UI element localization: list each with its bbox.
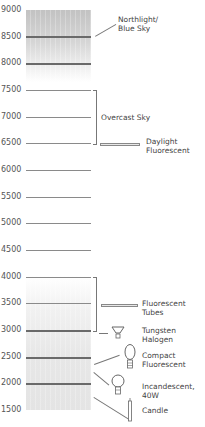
gridline-4000 bbox=[26, 277, 91, 278]
overcast-brace bbox=[93, 90, 97, 145]
gridline-8000 bbox=[26, 63, 91, 65]
halogen-bulb-icon bbox=[111, 326, 125, 340]
chart-title-cropped bbox=[0, 0, 205, 2]
northlight-label: Northlight/ Blue Sky bbox=[118, 15, 158, 33]
gridline-7000 bbox=[26, 117, 91, 118]
gridline-6000 bbox=[26, 170, 91, 171]
y-tick-label: 1500 bbox=[1, 406, 23, 414]
y-tick-label: 4500 bbox=[1, 246, 23, 254]
y-tick-label: 6500 bbox=[1, 139, 23, 147]
compact-fluorescent-label: Compact Fluorescent bbox=[142, 351, 186, 369]
incandescent-label: Incandescent, 40W bbox=[142, 382, 205, 400]
gridline-7500 bbox=[26, 90, 91, 91]
y-tick-label: 5000 bbox=[1, 219, 23, 227]
gridline-5500 bbox=[26, 197, 91, 198]
gridline-5000 bbox=[26, 223, 91, 224]
gridline-3000 bbox=[26, 330, 91, 332]
gridline-8500 bbox=[26, 36, 91, 38]
daylight-fluorescent-label: Daylight Fluorescent bbox=[146, 137, 190, 155]
fluorescent-tubes-label: Fluorescent Tubes bbox=[142, 299, 186, 317]
halogen-leader bbox=[99, 333, 108, 334]
y-tick-label: 8000 bbox=[1, 59, 23, 67]
cool-gradient-band bbox=[26, 10, 91, 82]
y-tick-label: 2500 bbox=[1, 353, 23, 361]
candle-leader bbox=[93, 397, 129, 420]
candle-label: Candle bbox=[142, 406, 168, 415]
y-tick-label: 2000 bbox=[1, 379, 23, 387]
y-tick-label: 8500 bbox=[1, 33, 23, 41]
overcast-label: Overcast Sky bbox=[101, 113, 150, 122]
y-tick-label: 3500 bbox=[1, 299, 23, 307]
y-tick-label: 6000 bbox=[1, 166, 23, 174]
daylight-fluorescent-tube-icon bbox=[100, 143, 140, 146]
y-tick-label: 7500 bbox=[1, 86, 23, 94]
gridline-4500 bbox=[26, 250, 91, 251]
candle-icon bbox=[127, 398, 133, 422]
incandescent-leader bbox=[93, 372, 109, 386]
warm-gradient-band bbox=[26, 276, 91, 410]
fluorescent-tube-icon bbox=[101, 304, 138, 307]
gridline-6500 bbox=[26, 143, 91, 144]
gridline-2000 bbox=[26, 383, 91, 385]
fluorescent-brace bbox=[93, 277, 97, 332]
gridline-2500 bbox=[26, 357, 91, 359]
gridline-3500 bbox=[26, 303, 91, 304]
y-tick-label: 4000 bbox=[1, 273, 23, 281]
tungsten-halogen-label: Tungsten Halogen bbox=[142, 326, 176, 344]
cfl-leader bbox=[94, 355, 120, 365]
cfl-bulb-icon bbox=[124, 344, 136, 370]
y-tick-label: 5500 bbox=[1, 193, 23, 201]
incandescent-bulb-icon bbox=[111, 374, 125, 396]
y-tick-label: 3000 bbox=[1, 326, 23, 334]
y-tick-label: 9000 bbox=[1, 6, 23, 14]
northlight-leader bbox=[95, 24, 116, 37]
y-tick-label: 7000 bbox=[1, 113, 23, 121]
